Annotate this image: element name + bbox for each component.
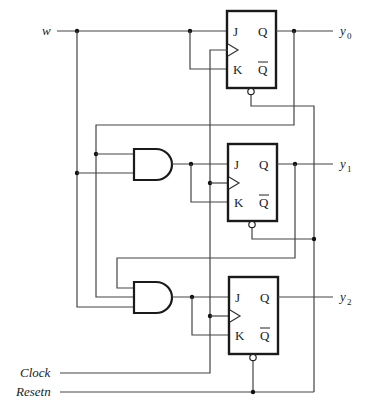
junction-dot (312, 237, 316, 241)
input-label-clock: Clock (20, 365, 51, 380)
output-sub-y0: 0 (347, 31, 352, 41)
and-gate-1 (134, 149, 172, 180)
output-label-y1: y (338, 156, 346, 171)
output-sub-y2: 2 (347, 297, 352, 307)
pin-k: K (235, 328, 245, 343)
wire-reset-ff1 (252, 228, 314, 239)
schematic-svg: w J K Q Q y 0 Clock J K Q Q (0, 0, 368, 412)
output-label-y2: y (338, 289, 346, 304)
pin-j: J (233, 24, 238, 39)
pin-q: Q (258, 24, 268, 39)
pin-qbar: Q (260, 328, 270, 343)
circuit-diagram: w J K Q Q y 0 Clock J K Q Q (0, 0, 368, 412)
wire-clock (60, 50, 228, 373)
input-label-resetn: Resetn (15, 384, 51, 399)
wire-w-vertical (77, 31, 134, 307)
flipflop-1: J K Q Q (228, 144, 277, 228)
reset-bubble-icon (248, 88, 254, 94)
junction-dot (251, 390, 255, 394)
pin-qbar: Q (258, 62, 268, 77)
input-label-w: w (42, 23, 51, 38)
output-label-y0: y (338, 23, 346, 38)
pin-j: J (235, 290, 240, 305)
reset-bubble-icon (249, 221, 255, 227)
pin-k: K (234, 195, 244, 210)
output-sub-y1: 1 (347, 164, 352, 174)
flipflop-0: J K Q Q (227, 11, 276, 95)
and-gate-2 (134, 282, 172, 313)
reset-bubble-icon (250, 354, 256, 360)
pin-j: J (234, 157, 239, 172)
pin-q: Q (259, 157, 269, 172)
pin-q: Q (260, 290, 270, 305)
flipflop-2: J K Q Q (229, 277, 278, 361)
pin-k: K (233, 62, 243, 77)
pin-qbar: Q (259, 195, 269, 210)
